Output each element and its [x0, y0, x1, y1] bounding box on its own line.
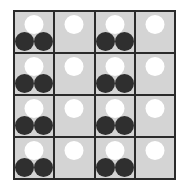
white-piece	[65, 57, 84, 76]
board-cell-1-1[interactable]	[54, 53, 94, 95]
white-piece	[25, 15, 44, 34]
black-piece	[115, 116, 134, 135]
white-piece	[145, 15, 164, 34]
black-piece	[34, 116, 53, 135]
white-piece	[105, 141, 124, 160]
black-piece	[15, 74, 34, 93]
board-cell-1-0[interactable]	[14, 53, 54, 95]
white-piece	[105, 15, 124, 34]
black-piece	[34, 158, 53, 177]
board-cell-2-2[interactable]	[95, 95, 135, 137]
black-piece	[96, 116, 115, 135]
black-piece	[96, 32, 115, 51]
board-cell-1-3[interactable]	[135, 53, 175, 95]
board-cell-0-0[interactable]	[14, 11, 54, 53]
black-piece	[15, 116, 34, 135]
board-cell-1-2[interactable]	[95, 53, 135, 95]
board-cell-0-3[interactable]	[135, 11, 175, 53]
black-piece	[15, 32, 34, 51]
white-piece	[25, 141, 44, 160]
black-piece	[115, 158, 134, 177]
white-piece	[105, 99, 124, 118]
board-cell-3-3[interactable]	[135, 137, 175, 179]
board-cell-2-0[interactable]	[14, 95, 54, 137]
white-piece	[65, 15, 84, 34]
board-cell-2-3[interactable]	[135, 95, 175, 137]
black-piece	[15, 158, 34, 177]
black-piece	[115, 32, 134, 51]
board-cell-3-1[interactable]	[54, 137, 94, 179]
board-cell-3-0[interactable]	[14, 137, 54, 179]
black-piece	[34, 32, 53, 51]
black-piece	[96, 74, 115, 93]
white-piece	[25, 57, 44, 76]
black-piece	[115, 74, 134, 93]
game-board	[13, 10, 176, 180]
board-cell-3-2[interactable]	[95, 137, 135, 179]
board-cell-0-1[interactable]	[54, 11, 94, 53]
white-piece	[145, 141, 164, 160]
white-piece	[145, 57, 164, 76]
black-piece	[96, 158, 115, 177]
black-piece	[34, 74, 53, 93]
white-piece	[105, 57, 124, 76]
white-piece	[65, 99, 84, 118]
white-piece	[145, 99, 164, 118]
board-cell-2-1[interactable]	[54, 95, 94, 137]
white-piece	[65, 141, 84, 160]
white-piece	[25, 99, 44, 118]
board-cell-0-2[interactable]	[95, 11, 135, 53]
